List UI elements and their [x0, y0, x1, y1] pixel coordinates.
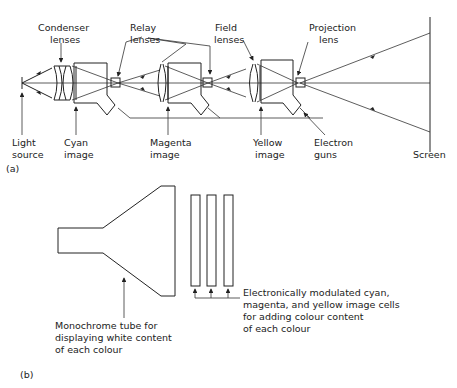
label-pointers	[22, 37, 325, 135]
cyan-image-cell	[191, 195, 200, 286]
field-label-1: Field	[215, 22, 237, 33]
magenta-label-2: image	[150, 149, 180, 160]
cells-label-3: for adding colour content	[243, 311, 364, 322]
field-label-2: lenses	[214, 34, 244, 45]
cyan-image-tube	[74, 63, 115, 115]
relay-label-2: lenses	[130, 34, 160, 45]
cells-label-1: Electronically modulated cyan,	[243, 287, 389, 298]
monochrome-tube	[58, 186, 175, 296]
optical-projection-diagram: Condenser lenses Relay lenses Field lens…	[0, 0, 457, 388]
electron-guns-label-2: guns	[314, 149, 337, 160]
panel-label-a: (a)	[6, 163, 19, 174]
cells-label-4: of each colour	[243, 323, 311, 334]
monochrome-label-3: of each colour	[55, 344, 123, 355]
cyan-label-1: Cyan	[64, 137, 88, 148]
figure-b: Monochrome tube for displaying white con…	[20, 186, 400, 380]
projection-label-2: lens	[319, 34, 339, 45]
cells-label-2: magenta, and yellow image cells	[243, 299, 400, 310]
cyan-label-2: image	[64, 149, 94, 160]
yellow-label-2: image	[255, 149, 285, 160]
screen-label: Screen	[413, 149, 446, 160]
yellow-image-cell	[224, 195, 233, 286]
electron-gun-feed	[118, 108, 323, 118]
cell-pointers	[124, 278, 240, 318]
magenta-image-tube	[168, 63, 209, 115]
figure-a: Condenser lenses Relay lenses Field lens…	[6, 17, 446, 174]
projection-rays	[300, 33, 430, 132]
monochrome-label-1: Monochrome tube for	[55, 320, 158, 331]
relay-label-1: Relay	[130, 22, 156, 33]
condenser-label-1: Condenser	[38, 22, 89, 33]
projection-label-1: Projection	[309, 22, 356, 33]
electron-guns-label-1: Electron	[314, 137, 353, 148]
condenser-label-2: lenses	[50, 34, 80, 45]
yellow-label-1: Yellow	[252, 137, 282, 148]
magenta-label-1: Magenta	[150, 137, 191, 148]
panel-label-b: (b)	[20, 369, 33, 380]
magenta-image-cell	[207, 195, 216, 286]
monochrome-label-2: displaying white content	[55, 332, 172, 343]
light-source-label-1: Light	[12, 137, 36, 148]
light-source-label-2: source	[12, 149, 44, 160]
